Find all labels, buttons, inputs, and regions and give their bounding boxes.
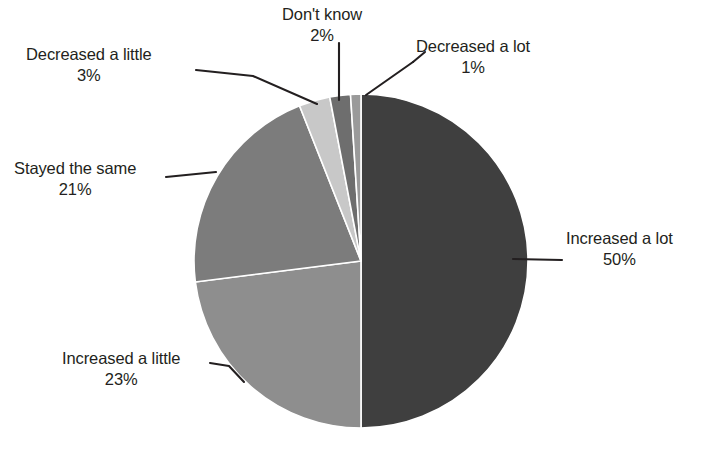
pie-label-increased-a-lot: Increased a lot 50% [566,228,673,271]
leader-line-decreased-a-lot-2 [366,62,413,95]
pie-label-name: Increased a little [62,348,180,369]
pie-label-name: Decreased a little [26,44,152,65]
pie-label-percent: 1% [416,57,530,78]
pie-label-stayed-the-same: Stayed the same 21% [14,158,136,201]
pie-label-name: Decreased a lot [416,36,530,57]
pie-label-percent: 21% [14,179,136,200]
pie-label-dont-know: Don't know 2% [282,4,362,47]
pie-slice-group [194,94,528,428]
pie-label-name: Increased a lot [566,228,673,249]
pie-chart-figure: Decreased a little 3% Don't know 2% Decr… [0,0,711,449]
pie-label-decreased-a-lot: Decreased a lot 1% [416,36,530,79]
pie-label-increased-a-little: Increased a little 23% [62,348,180,391]
pie-label-percent: 2% [282,25,362,46]
pie-label-percent: 23% [62,369,180,390]
pie-label-percent: 50% [566,249,673,270]
pie-label-name: Don't know [282,4,362,25]
pie-label-name: Stayed the same [14,158,136,179]
leader-line-stayed-the-same [166,172,216,177]
pie-label-decreased-a-little: Decreased a little 3% [26,44,152,87]
leader-line-decreased-a-little [196,70,317,104]
pie-slice-increased-a-little[interactable] [195,261,361,428]
leader-line-increased-a-lot [513,259,562,260]
pie-slice-increased-a-lot[interactable] [361,94,528,428]
pie-label-percent: 3% [26,65,152,86]
